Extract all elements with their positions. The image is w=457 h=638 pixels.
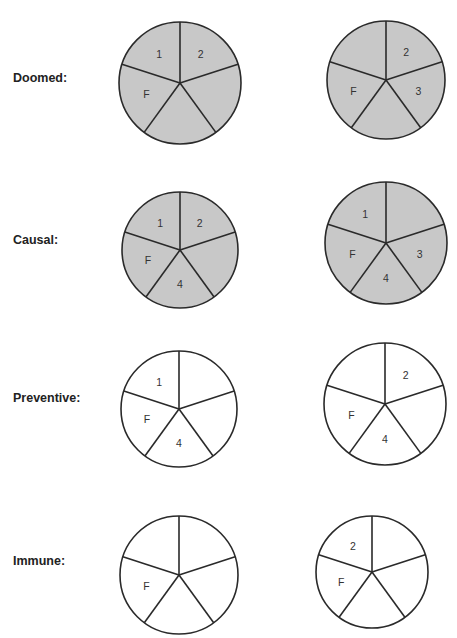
segment-label: 1	[157, 217, 163, 229]
pie-immune-right: 2F	[316, 516, 428, 628]
segment-label: F	[143, 88, 149, 100]
segment-label: 4	[383, 272, 389, 284]
segment-label: 2	[198, 48, 204, 60]
segment-label: 1	[362, 208, 368, 220]
segment-label: F	[338, 576, 344, 588]
segment-label: 2	[403, 369, 409, 381]
segment-label: F	[143, 580, 149, 592]
segment-label: F	[145, 254, 151, 266]
segment-label: 3	[417, 248, 423, 260]
segment-label: 4	[177, 278, 183, 290]
segment-label: 4	[176, 437, 182, 449]
segment-label: 2	[403, 46, 409, 58]
segment-label: 3	[416, 85, 422, 97]
pie-immune-left: F	[120, 516, 238, 634]
pie-causal-left: 12F4	[122, 192, 238, 308]
segment-label: F	[350, 85, 356, 97]
segment-label: F	[349, 248, 355, 260]
pie-doomed-left: 12F	[119, 22, 241, 144]
pie-causal-right: 13F4	[325, 182, 447, 304]
segment-label: 2	[197, 217, 203, 229]
pie-doomed-right: 23F	[327, 21, 445, 139]
pie-diagram-canvas: 12F23F12F413F41F42F4F2F	[0, 0, 457, 638]
segment-label: 1	[156, 376, 162, 388]
segment-label: 4	[382, 433, 388, 445]
segment-label: 1	[156, 48, 162, 60]
pie-preventive-left: 1F4	[121, 351, 237, 467]
segment-label: F	[348, 409, 354, 421]
pie-preventive-right: 2F4	[324, 343, 446, 465]
segment-label: 2	[350, 540, 356, 552]
segment-label: F	[144, 413, 150, 425]
